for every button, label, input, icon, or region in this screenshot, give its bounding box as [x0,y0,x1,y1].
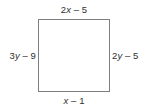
side-label-top-text: 2x – 5 [61,4,88,15]
side-label-left: 3y – 9 [0,50,36,61]
geometry-figure: 2x – 5 3y – 9 2y – 5 x – 1 [0,0,146,111]
side-label-top: 2x – 5 [38,4,110,15]
square-shape [38,19,110,92]
side-label-bottom-text: x – 1 [63,95,84,106]
side-label-bottom: x – 1 [38,95,110,106]
side-label-right: 2y – 5 [112,50,146,61]
side-label-right-text: 2y – 5 [112,50,139,61]
side-label-left-text: 3y – 9 [10,50,37,61]
